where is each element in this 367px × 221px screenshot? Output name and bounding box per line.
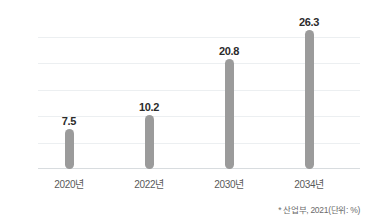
bar[interactable] — [145, 115, 154, 169]
bar-chart: 25 20 15 10 5 0 7.5 10.2 — [0, 0, 367, 221]
bar-value-label: 7.5 — [29, 115, 109, 127]
bar-value-label: 26.3 — [269, 16, 349, 28]
bar[interactable] — [225, 59, 234, 169]
bar-value-label: 10.2 — [109, 101, 189, 113]
plot-area: 7.5 10.2 20.8 26.3 — [38, 30, 360, 169]
x-tick-label-2020: 2020년 — [24, 176, 114, 191]
bar[interactable] — [305, 30, 314, 169]
bar-slot: 20.8 — [189, 30, 269, 169]
source-footnote: * 산업부, 2021(단위: %) — [278, 203, 360, 215]
bar-slot: 10.2 — [109, 30, 189, 169]
bar-value-label: 20.8 — [189, 45, 269, 57]
bars-layer: 7.5 10.2 20.8 26.3 — [38, 30, 360, 169]
x-tick-label-2030: 2030년 — [184, 176, 274, 191]
x-tick-label-2034: 2034년 — [264, 176, 354, 191]
bar-slot: 26.3 — [269, 30, 349, 169]
bar-slot: 7.5 — [29, 30, 109, 169]
bar[interactable] — [65, 129, 74, 169]
x-tick-label-2022: 2022년 — [104, 176, 194, 191]
